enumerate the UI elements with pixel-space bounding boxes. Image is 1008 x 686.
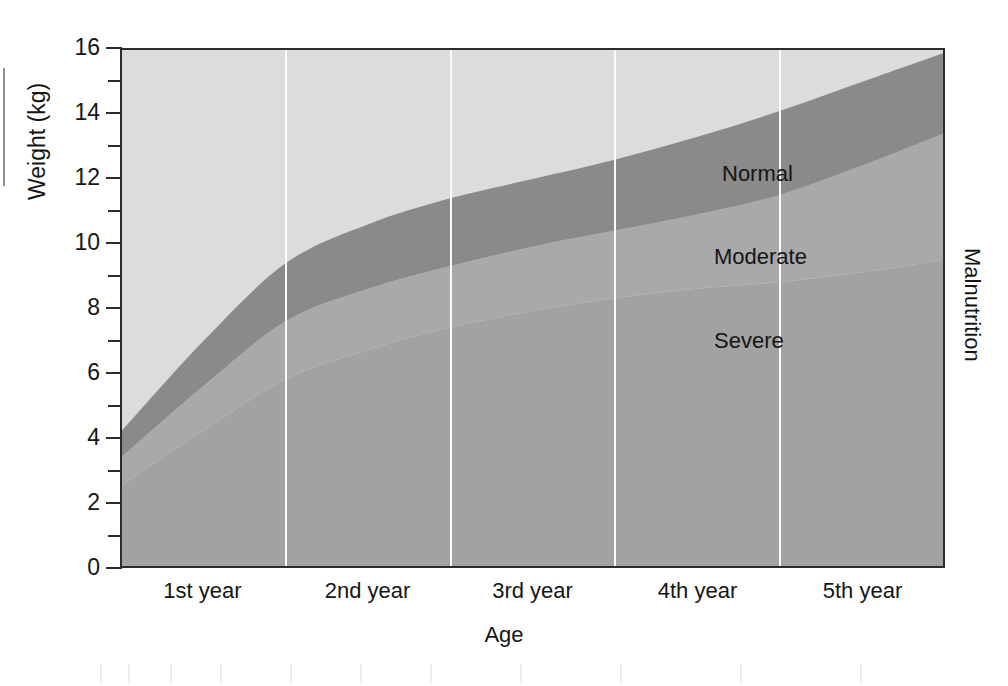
x-tick-label-4: 4th year (615, 578, 780, 604)
x-tick-label-3: 3rd year (450, 578, 615, 604)
y-tick-major-0 (106, 567, 122, 569)
x-tick-label-2: 2nd year (285, 578, 450, 604)
y-tick-minor-9 (108, 275, 121, 277)
right-axis-title: Malnutrition (959, 248, 985, 468)
band-label-severe: Severe (714, 328, 784, 354)
y-tick-minor-11 (108, 210, 121, 212)
x-axis-title: Age (0, 622, 1008, 648)
gridline-year-4 (779, 50, 781, 566)
y-tick-major-4 (106, 437, 122, 439)
x-tick-label-1: 1st year (120, 578, 285, 604)
y-tick-minor-15 (108, 80, 121, 82)
y-tick-major-8 (106, 307, 122, 309)
area-bands (122, 50, 943, 566)
band-label-moderate: Moderate (714, 244, 807, 270)
y-tick-major-16 (106, 47, 122, 49)
gridline-year-3 (614, 50, 616, 566)
gridline-year-2 (450, 50, 452, 566)
x-tick-label-5: 5th year (780, 578, 945, 604)
band-label-normal: Normal (722, 161, 793, 187)
y-tick-major-12 (106, 177, 122, 179)
y-tick-major-10 (106, 242, 122, 244)
plot-area: Normal Moderate Severe (120, 48, 945, 568)
y-tick-major-2 (106, 502, 122, 504)
y-tick-minor-3 (108, 470, 121, 472)
y-tick-minor-13 (108, 145, 121, 147)
y-axis-title: Weight (kg) (24, 0, 51, 200)
gridline-year-1 (285, 50, 287, 566)
y-tick-minor-5 (108, 405, 121, 407)
y-tick-minor-7 (108, 340, 121, 342)
y-tick-major-6 (106, 372, 122, 374)
y-tick-major-14 (106, 112, 122, 114)
growth-chart-figure: Normal Moderate Severe 0246810121416 1st… (0, 0, 1008, 686)
y-tick-minor-1 (108, 535, 121, 537)
